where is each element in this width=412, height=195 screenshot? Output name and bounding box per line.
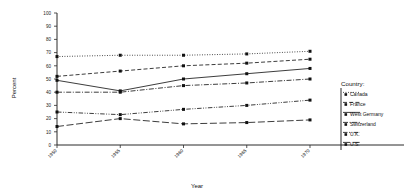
series-group [56, 50, 312, 128]
data-point-marker [182, 54, 185, 57]
data-point-marker [309, 118, 312, 121]
legend-item-label: West Germany [350, 111, 384, 117]
data-point-marker [56, 75, 59, 78]
data-point-marker [182, 122, 185, 125]
data-point-marker [119, 91, 122, 94]
y-tick-label: 90 [46, 24, 52, 29]
y-tick-label: 0 [48, 143, 51, 148]
x-tick-label: 1970 [300, 148, 311, 159]
legend-item-label: France [350, 101, 366, 107]
y-tick-label: 80 [46, 37, 52, 42]
legend-item-label: U.S. [350, 141, 360, 147]
data-point-marker [309, 99, 312, 102]
y-tick-group: 0102030405060708090100 [43, 11, 57, 148]
series-line [57, 59, 310, 76]
data-point-marker [182, 64, 185, 67]
data-point-marker [245, 72, 248, 75]
data-point-marker [245, 121, 248, 124]
y-axis-title: Percent [11, 77, 17, 98]
x-axis-title: Year [191, 183, 203, 189]
legend-item-label: U.K. [350, 131, 360, 137]
data-point-marker [119, 117, 122, 120]
data-point-marker [182, 78, 185, 81]
x-tick-label: 1960 [173, 148, 184, 159]
y-tick-label: 70 [46, 50, 52, 55]
y-tick-label: 50 [46, 77, 52, 82]
legend-title: Country: [341, 80, 365, 87]
data-point-marker [56, 79, 59, 82]
data-point-marker [309, 58, 312, 61]
data-point-marker [182, 84, 185, 87]
legend-marker [345, 133, 348, 136]
y-tick-label: 30 [46, 103, 52, 108]
y-tick-label: 20 [46, 116, 52, 121]
x-tick-label: 1950 [47, 148, 58, 159]
y-axis: 0102030405060708090100 [43, 11, 57, 148]
y-tick-label: 10 [46, 130, 52, 135]
legend-marker [345, 143, 348, 146]
data-point-marker [56, 55, 59, 58]
legend-marker [345, 93, 348, 96]
data-point-marker [119, 54, 122, 57]
data-point-marker [119, 70, 122, 73]
chart-canvas: 0102030405060708090100 19501955196019651… [0, 0, 412, 195]
data-point-marker [309, 67, 312, 70]
data-point-marker [56, 125, 59, 128]
line-chart: 0102030405060708090100 19501955196019651… [0, 0, 412, 195]
data-point-marker [245, 52, 248, 55]
data-point-marker [56, 111, 59, 114]
data-point-marker [309, 50, 312, 53]
x-tick-label: 1955 [110, 148, 121, 159]
data-point-marker [245, 81, 248, 84]
data-point-marker [309, 78, 312, 81]
x-tick-label: 1965 [237, 148, 248, 159]
legend-marker [345, 113, 348, 116]
data-point-marker [182, 108, 185, 111]
data-point-marker [245, 104, 248, 107]
series-line [57, 100, 310, 115]
legend-marker [345, 123, 348, 126]
y-tick-label: 40 [46, 90, 52, 95]
legend: Country: CanadaFranceWest GermanySwitzer… [341, 80, 384, 150]
legend-item-label: Canada [350, 91, 368, 97]
data-point-marker [119, 113, 122, 116]
data-point-marker [56, 91, 59, 94]
legend-items: CanadaFranceWest GermanySwitzerlandU.K.U… [343, 91, 384, 147]
y-tick-label: 100 [43, 11, 51, 16]
data-point-marker [245, 62, 248, 65]
x-tick-group: 19501955196019651970 [47, 145, 311, 159]
y-tick-label: 60 [46, 64, 52, 69]
legend-item-label: Switzerland [350, 121, 376, 127]
legend-marker [345, 103, 348, 106]
